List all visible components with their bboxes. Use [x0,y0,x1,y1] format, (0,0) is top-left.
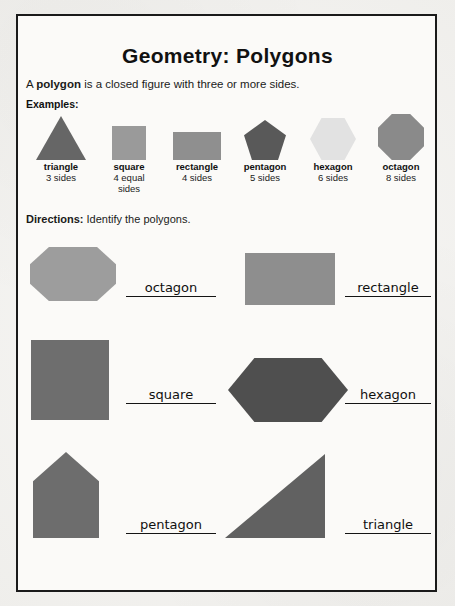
answer-field-6[interactable]: triangle [345,518,431,534]
example-triangle: triangle 3 sides [24,110,98,184]
square-icon [112,126,146,160]
example-square: square 4 equal sides [92,110,166,195]
page-title: Geometry: Polygons [0,44,455,68]
octagon-icon [378,114,424,160]
worksheet-page: Geometry: Polygons A polygon is a closed… [0,0,455,606]
answer-field-3[interactable]: square [126,388,216,404]
answer-field-2[interactable]: rectangle [345,281,431,297]
example-pentagon-sides: 5 sides [228,173,302,184]
triangle-icon [36,116,86,160]
answer-field-1[interactable]: octagon [126,281,216,297]
definition-suffix: is a closed figure with three or more si… [81,78,300,90]
definition-term: polygon [36,78,81,90]
example-rectangle-sides: 4 sides [160,173,234,184]
rectangle-icon [173,132,221,160]
example-pentagon-figure [228,110,302,160]
example-square-sides-extra: sides [92,184,166,195]
hexagon-icon [310,118,356,160]
example-triangle-figure [24,110,98,160]
example-triangle-sides: 3 sides [24,173,98,184]
example-hexagon-sides: 6 sides [296,173,370,184]
example-octagon-figure [364,110,438,160]
examples-row: triangle 3 sides square 4 equal sides re… [24,110,434,200]
directions-label: Directions: [26,213,83,225]
example-hexagon: hexagon 6 sides [296,110,370,184]
polygon-definition: A polygon is a closed figure with three … [26,78,300,90]
example-octagon-sides: 8 sides [364,173,438,184]
examples-label: Examples: [26,98,79,110]
example-octagon: octagon 8 sides [364,110,438,184]
directions-text: Identify the polygons. [83,213,190,225]
square-shape [31,340,109,420]
example-rectangle-figure [160,110,234,160]
example-square-figure [92,110,166,160]
example-rectangle: rectangle 4 sides [160,110,234,184]
example-hexagon-figure [296,110,370,160]
answer-field-4[interactable]: hexagon [345,388,431,404]
example-pentagon: pentagon 5 sides [228,110,302,184]
pentagon-icon [244,120,286,160]
octagon-shape [30,247,116,301]
directions: Directions: Identify the polygons. [26,213,190,225]
rectangle-shape [245,253,335,305]
answer-field-5[interactable]: pentagon [126,518,216,534]
definition-prefix: A [26,78,36,90]
